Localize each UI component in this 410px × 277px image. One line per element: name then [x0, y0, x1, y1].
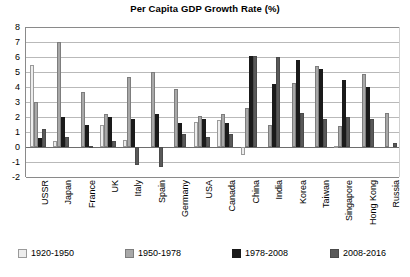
chart-legend: 1920-19501950-19781978-20082008-2016 [0, 249, 410, 265]
x-axis-label-hong-kong: Hong Kong [369, 180, 378, 225]
legend-swatch-icon [330, 249, 339, 258]
bar-group [307, 27, 330, 177]
x-axis-category-labels: USSRJapanFranceUKItalySpainGermanyUSACan… [25, 180, 400, 242]
plot-area [25, 27, 400, 177]
bar-group [49, 27, 72, 177]
bar-group [190, 27, 213, 177]
bar [393, 143, 397, 148]
y-axis-tick-label: 6 [0, 53, 20, 62]
bar-group [96, 27, 119, 177]
y-axis-tick-label: -2 [0, 173, 20, 182]
bar [112, 141, 116, 147]
y-axis-tick-label: 5 [0, 68, 20, 77]
bar [206, 137, 210, 148]
x-axis-label-india: India [275, 180, 284, 200]
x-axis-label-usa: USA [205, 180, 214, 199]
x-axis-label-spain: Spain [158, 180, 167, 203]
legend-item[interactable]: 1978-2008 [232, 249, 288, 258]
x-axis-label-ussr: USSR [41, 180, 50, 205]
y-axis-tick-label: 3 [0, 98, 20, 107]
legend-label: 1978-2008 [245, 249, 288, 258]
y-axis-tick-label: 4 [0, 83, 20, 92]
bar-group [143, 27, 166, 177]
x-axis-label-japan: Japan [64, 180, 73, 205]
bar [385, 113, 389, 148]
bar-group [167, 27, 190, 177]
legend-item[interactable]: 2008-2016 [330, 249, 386, 258]
x-axis-label-germany: Germany [181, 180, 190, 217]
bar-group [214, 27, 237, 177]
x-axis-label-china: China [252, 180, 261, 204]
x-axis-label-canada: Canada [228, 180, 237, 212]
legend-swatch-icon [125, 249, 134, 258]
legend-swatch-icon [18, 249, 27, 258]
y-axis-tick-label: 2 [0, 113, 20, 122]
bar [135, 147, 139, 165]
bar [241, 147, 245, 155]
legend-label: 2008-2016 [343, 249, 386, 258]
x-axis-label-uk: UK [111, 180, 120, 193]
bar [85, 125, 89, 148]
y-axis-tick-label: 8 [0, 23, 20, 32]
bar-group [284, 27, 307, 177]
bar-group [378, 27, 401, 177]
y-axis-tick-label: 1 [0, 128, 20, 137]
x-axis-label-korea: Korea [299, 180, 308, 204]
bar-group [26, 27, 49, 177]
bar [131, 119, 135, 148]
x-axis-label-taiwan: Taiwan [322, 180, 331, 208]
bar [155, 114, 159, 147]
bar [159, 147, 163, 167]
bar [300, 113, 304, 148]
bar-group [260, 27, 283, 177]
chart-container: Per Capita GDP Growth Rate (%) 876543210… [0, 0, 410, 277]
legend-label: 1920-1950 [31, 249, 74, 258]
chart-title: Per Capita GDP Growth Rate (%) [0, 3, 410, 14]
bar-group [237, 27, 260, 177]
bar-group [354, 27, 377, 177]
x-axis-label-italy: Italy [134, 180, 143, 197]
y-axis-tick-label: 7 [0, 38, 20, 47]
bar [253, 56, 257, 148]
bar-group [120, 27, 143, 177]
bar [182, 134, 186, 148]
bar-group [331, 27, 354, 177]
x-axis-label-singapore: Singapore [345, 180, 354, 221]
bar [276, 57, 280, 147]
legend-label: 1950-1978 [138, 249, 181, 258]
legend-item[interactable]: 1920-1950 [18, 249, 74, 258]
y-axis-tick-label: -1 [0, 158, 20, 167]
y-axis-tick-label: 0 [0, 143, 20, 152]
legend-item[interactable]: 1950-1978 [125, 249, 181, 258]
bar [346, 117, 350, 147]
x-axis-label-france: France [88, 180, 97, 208]
legend-swatch-icon [232, 249, 241, 258]
gridline--2 [26, 177, 399, 178]
bar [89, 146, 93, 148]
bar [370, 119, 374, 148]
bar-group [73, 27, 96, 177]
x-axis-label-russia: Russia [392, 180, 401, 208]
bar [42, 129, 46, 147]
bar [323, 119, 327, 148]
bar [65, 137, 69, 148]
bar [229, 134, 233, 148]
